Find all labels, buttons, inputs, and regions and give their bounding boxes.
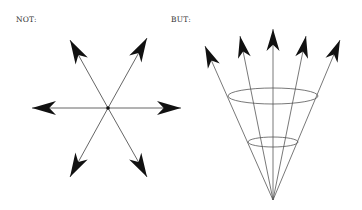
radiating-arrows-diagram <box>32 38 181 177</box>
arrow-right <box>108 101 181 115</box>
arrow-upper-left <box>70 40 108 108</box>
cone-arrow-1 <box>238 36 273 200</box>
arrow-upper-right <box>108 38 147 108</box>
cone-arrow-3 <box>273 36 308 200</box>
diagram-canvas: NOT: BUT: <box>0 0 362 210</box>
arrow-lower-right <box>108 108 147 177</box>
cone-arrow-2 <box>267 29 280 200</box>
diagram-svg <box>0 0 362 210</box>
cone-arrow-0 <box>205 46 273 200</box>
cone-arrows-diagram <box>205 29 340 200</box>
arrow-left <box>32 101 108 115</box>
center-point <box>106 106 110 110</box>
cone-arrow-4 <box>273 40 340 200</box>
arrow-lower-left <box>70 108 108 177</box>
